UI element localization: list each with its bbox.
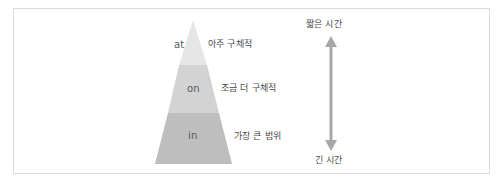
layer-description-in: 가장 큰 범위 <box>234 131 281 142</box>
double-arrow-icon <box>325 36 337 151</box>
layer-label-at: at <box>174 39 184 50</box>
layer-label-in: in <box>188 130 198 141</box>
time-axis-top-label: 짧은 시간 <box>306 19 342 30</box>
layer-label-on: on <box>187 83 200 94</box>
layer-description-on: 조금 더 구체적 <box>221 83 276 94</box>
time-axis-bottom-label: 긴 시간 <box>315 155 343 166</box>
layer-description-at: 아주 구체적 <box>208 39 252 50</box>
